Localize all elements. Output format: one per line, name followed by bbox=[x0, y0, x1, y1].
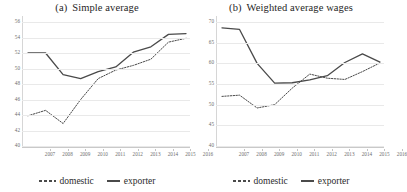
series-line-exporter bbox=[28, 34, 186, 79]
panels-row: (a)Simple average 404244464850525456 200… bbox=[0, 0, 388, 170]
x-tick-label: 2012 bbox=[133, 151, 143, 157]
panel-b-title-text: Weighted average wages bbox=[247, 2, 353, 13]
panel-b-y-axis-labels: 40455055606570 bbox=[194, 16, 216, 148]
gridline bbox=[216, 105, 384, 106]
gridline bbox=[22, 115, 190, 116]
x-tick-label: 2009 bbox=[80, 151, 90, 157]
panel-b-plot-area: 40455055606570 2007200820092010201120122… bbox=[194, 16, 388, 170]
x-tick-mark bbox=[402, 149, 403, 151]
x-tick-label: 2014 bbox=[362, 151, 372, 157]
y-tick-label: 52 bbox=[15, 50, 20, 55]
gridline bbox=[22, 38, 190, 39]
x-tick-mark bbox=[367, 149, 368, 151]
y-tick-label: 60 bbox=[209, 61, 214, 66]
gridline bbox=[216, 125, 384, 126]
x-tick-mark bbox=[120, 149, 121, 151]
legend-label-domestic: domestic bbox=[254, 176, 288, 186]
x-tick-label: 2007 bbox=[45, 151, 55, 157]
x-tick-mark bbox=[85, 149, 86, 151]
x-tick-label: 2011 bbox=[115, 151, 125, 157]
y-tick-label: 65 bbox=[209, 40, 214, 45]
panel-a-plot-area: 404244464850525456 200720082009201020112… bbox=[0, 16, 194, 170]
x-tick-label: 2008 bbox=[256, 151, 266, 157]
gridline bbox=[22, 131, 190, 132]
x-tick-label: 2009 bbox=[274, 151, 284, 157]
solid-line-swatch-icon bbox=[301, 180, 314, 182]
gridline bbox=[22, 100, 190, 101]
gridline bbox=[216, 146, 384, 147]
x-tick-mark bbox=[314, 149, 315, 151]
gridline bbox=[22, 146, 190, 147]
y-tick-label: 44 bbox=[15, 112, 20, 117]
x-tick-mark bbox=[332, 149, 333, 151]
y-tick-label: 40 bbox=[15, 143, 20, 148]
x-tick-mark bbox=[244, 149, 245, 151]
x-tick-mark bbox=[155, 149, 156, 151]
legends-row: domestic exporter domestic exporter bbox=[0, 170, 388, 192]
x-tick-mark bbox=[384, 149, 385, 151]
panel-simple-average: (a)Simple average 404244464850525456 200… bbox=[0, 0, 194, 170]
x-tick-label: 2013 bbox=[344, 151, 354, 157]
gridline bbox=[22, 69, 190, 70]
y-tick-label: 40 bbox=[209, 143, 214, 148]
y-tick-label: 55 bbox=[209, 81, 214, 86]
gridline bbox=[216, 63, 384, 64]
dashed-line-swatch-icon bbox=[39, 180, 56, 182]
y-tick-label: 54 bbox=[15, 35, 20, 40]
x-tick-label: 2008 bbox=[62, 151, 72, 157]
x-tick-label: 2014 bbox=[168, 151, 178, 157]
y-tick-label: 56 bbox=[15, 19, 20, 24]
y-tick-label: 48 bbox=[15, 81, 20, 86]
gridline bbox=[216, 43, 384, 44]
gridline bbox=[216, 22, 384, 23]
x-tick-label: 2010 bbox=[291, 151, 301, 157]
x-tick-mark bbox=[138, 149, 139, 151]
y-tick-label: 50 bbox=[209, 102, 214, 107]
panel-a-title: (a)Simple average bbox=[0, 0, 194, 16]
dashed-line-swatch-icon bbox=[233, 180, 250, 182]
x-tick-mark bbox=[297, 149, 298, 151]
gridline bbox=[22, 84, 190, 85]
panel-a-series-svg bbox=[22, 16, 190, 148]
x-tick-mark bbox=[279, 149, 280, 151]
y-tick-label: 42 bbox=[15, 128, 20, 133]
gridline bbox=[22, 22, 190, 23]
panel-b-legend: domestic exporter bbox=[194, 170, 388, 192]
panel-b-title: (b)Weighted average wages bbox=[194, 0, 388, 16]
x-tick-mark bbox=[68, 149, 69, 151]
solid-line-swatch-icon bbox=[107, 180, 120, 182]
panel-b-x-axis-labels: 2007200820092010201120122013201420152016 bbox=[216, 149, 384, 161]
gridline bbox=[216, 84, 384, 85]
x-tick-mark bbox=[262, 149, 263, 151]
x-tick-mark bbox=[173, 149, 174, 151]
x-tick-mark bbox=[103, 149, 104, 151]
x-tick-label: 2015 bbox=[379, 151, 389, 157]
x-tick-mark bbox=[349, 149, 350, 151]
x-tick-label: 2011 bbox=[309, 151, 319, 157]
panel-b-series-svg bbox=[216, 16, 384, 148]
x-tick-label: 2013 bbox=[150, 151, 160, 157]
x-tick-label: 2016 bbox=[397, 151, 407, 157]
panel-weighted-average-wages: (b)Weighted average wages 40455055606570… bbox=[194, 0, 388, 170]
x-tick-label: 2007 bbox=[239, 151, 249, 157]
y-tick-label: 50 bbox=[15, 66, 20, 71]
panel-a-y-axis-labels: 404244464850525456 bbox=[0, 16, 22, 148]
panel-a-legend: domestic exporter bbox=[0, 170, 194, 192]
y-tick-label: 45 bbox=[209, 123, 214, 128]
y-tick-label: 70 bbox=[209, 19, 214, 24]
series-line-domestic bbox=[222, 63, 380, 108]
x-tick-label: 2012 bbox=[327, 151, 337, 157]
series-line-domestic bbox=[28, 38, 186, 123]
gridline bbox=[22, 53, 190, 54]
legend-label-domestic: domestic bbox=[60, 176, 94, 186]
panel-a-label: (a) bbox=[55, 2, 67, 13]
panel-a-x-axis-labels: 2007200820092010201120122013201420152016 bbox=[22, 149, 190, 161]
panel-a-plot bbox=[22, 16, 190, 148]
x-tick-label: 2010 bbox=[97, 151, 107, 157]
x-tick-mark bbox=[50, 149, 51, 151]
y-tick-label: 46 bbox=[15, 97, 20, 102]
panel-a-title-text: Simple average bbox=[72, 2, 138, 13]
panel-b-plot bbox=[216, 16, 384, 148]
legend-label-exporter: exporter bbox=[318, 176, 350, 186]
